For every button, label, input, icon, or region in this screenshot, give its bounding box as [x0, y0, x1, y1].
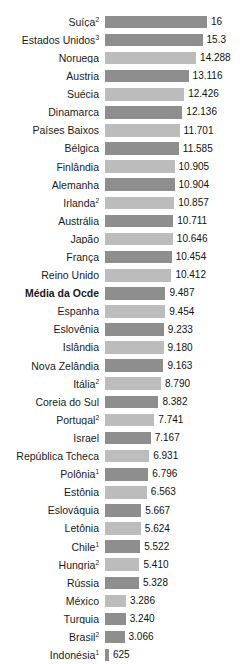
footnote-marker: 2 [95, 632, 99, 638]
bar-value-label: 5.522 [144, 541, 169, 553]
bar [105, 160, 175, 173]
bar-value-label: 5.410 [143, 559, 168, 571]
chart-row: Itália28.790 [0, 375, 247, 393]
bar-track: 5.410 [102, 556, 247, 574]
bar [105, 323, 164, 336]
bar-category-label: Austrália [0, 216, 102, 227]
bar [105, 558, 139, 571]
chart-row: Alemanha10.904 [0, 176, 247, 194]
chart-row: Hungria25.410 [0, 556, 247, 574]
bar-category-label: França [0, 252, 102, 263]
chart-row: Noruega14.288 [0, 49, 247, 67]
bar-category-label: Rússia [0, 578, 102, 589]
bar-value-label: 8.790 [165, 378, 190, 390]
bar-category-label: México [0, 596, 102, 607]
bar-category-label: Irlanda2 [0, 198, 102, 209]
chart-row: Brasil23.066 [0, 628, 247, 646]
bar-track: 10.711 [102, 212, 247, 230]
bar [105, 414, 154, 427]
footnote-marker: 2 [95, 415, 99, 421]
bar-category-label: República Tcheca [0, 451, 102, 462]
bar-value-label: 3.066 [129, 631, 154, 643]
chart-row: Eslovênia9.233 [0, 321, 247, 339]
bar-category-label: Suíça2 [0, 17, 102, 28]
bar [105, 577, 139, 590]
bar-category-label: Estônia [0, 487, 102, 498]
footnote-marker: 1 [95, 469, 99, 475]
footnote-marker: 1 [95, 650, 99, 656]
chart-title-remnant [60, 0, 247, 10]
bar [105, 432, 151, 445]
bar-value-label: 5.328 [143, 577, 168, 589]
bar-value-label: 9.180 [168, 342, 193, 354]
bar-category-label: Finlândia [0, 162, 102, 173]
bar-track: 9.233 [102, 321, 247, 339]
bar-value-label: 11.585 [183, 143, 213, 155]
bar-track: 9.163 [102, 357, 247, 375]
bar-track: 15.3 [102, 31, 247, 49]
chart-row: Estados Unidos315.3 [0, 31, 247, 49]
bar-track: 10.646 [102, 230, 247, 248]
bar-category-label: Dinamarca [0, 107, 102, 118]
bar-value-label: 16 [211, 16, 222, 28]
bar-category-label: Turquia [0, 614, 102, 625]
bar-value-label: 10.904 [179, 179, 210, 191]
chart-row: Eslováquia5.667 [0, 502, 247, 520]
bar-category-label: Israel [0, 433, 102, 444]
bar-category-label: Japão [0, 234, 102, 245]
bar-track: 8.382 [102, 393, 247, 411]
bar-track: 6.796 [102, 465, 247, 483]
bar-track: 11.701 [102, 122, 247, 140]
bar-track: 8.790 [102, 375, 247, 393]
bar-category-label: Estados Unidos3 [0, 35, 102, 46]
bar-category-label: Bélgica [0, 143, 102, 154]
bar [105, 197, 174, 210]
bar-category-label: Espanha [0, 306, 102, 317]
bar-value-label: 15.3 [207, 34, 226, 46]
chart-row: Islândia9.180 [0, 339, 247, 357]
footnote-marker: 2 [95, 379, 99, 385]
bar-category-label: Média da Ocde [0, 288, 102, 299]
bar [105, 540, 140, 553]
bar-track: 5.328 [102, 574, 247, 592]
bar-track: 14.288 [102, 49, 247, 67]
chart-row: Japão10.646 [0, 230, 247, 248]
footnote-marker: 2 [95, 17, 99, 23]
bar [105, 34, 203, 47]
chart-row: Dinamarca12.136 [0, 103, 247, 121]
chart-row: Finlândia10.905 [0, 158, 247, 176]
bar-value-label: 10.412 [175, 269, 206, 281]
chart-row: Nova Zelândia9.163 [0, 357, 247, 375]
bar-value-label: 6.931 [153, 450, 178, 462]
bar-track: 10.454 [102, 248, 247, 266]
bar-value-label: 5.624 [145, 523, 170, 535]
bar-category-label: Indonésia1 [0, 650, 102, 661]
bar-track: 10.905 [102, 158, 247, 176]
bar-track: 10.412 [102, 266, 247, 284]
bar [105, 287, 165, 300]
chart-row: México3.286 [0, 592, 247, 610]
bar [105, 305, 165, 318]
bar-category-label: Países Baixos [0, 125, 102, 136]
bar-value-label: 625 [113, 649, 130, 661]
bar-value-label: 10.646 [177, 233, 208, 245]
footnote-marker: 3 [95, 35, 99, 41]
chart-row: Letônia5.624 [0, 520, 247, 538]
bar [105, 215, 173, 228]
bar-value-label: 9.454 [169, 306, 194, 318]
chart-row: Espanha9.454 [0, 303, 247, 321]
bar [105, 233, 173, 246]
bar-track: 9.487 [102, 284, 247, 302]
bar-track: 10.904 [102, 176, 247, 194]
bar-category-label: Hungria2 [0, 560, 102, 571]
bar [105, 142, 179, 155]
bar [105, 269, 171, 282]
bar [105, 377, 161, 390]
bar-category-label: Polônia1 [0, 469, 102, 480]
chart-row: Estônia6.563 [0, 483, 247, 501]
bar-value-label: 9.233 [168, 324, 193, 336]
bar-track: 3.240 [102, 610, 247, 628]
bar [105, 251, 172, 264]
bar-category-label: Letônia [0, 523, 102, 534]
bar [105, 468, 148, 481]
